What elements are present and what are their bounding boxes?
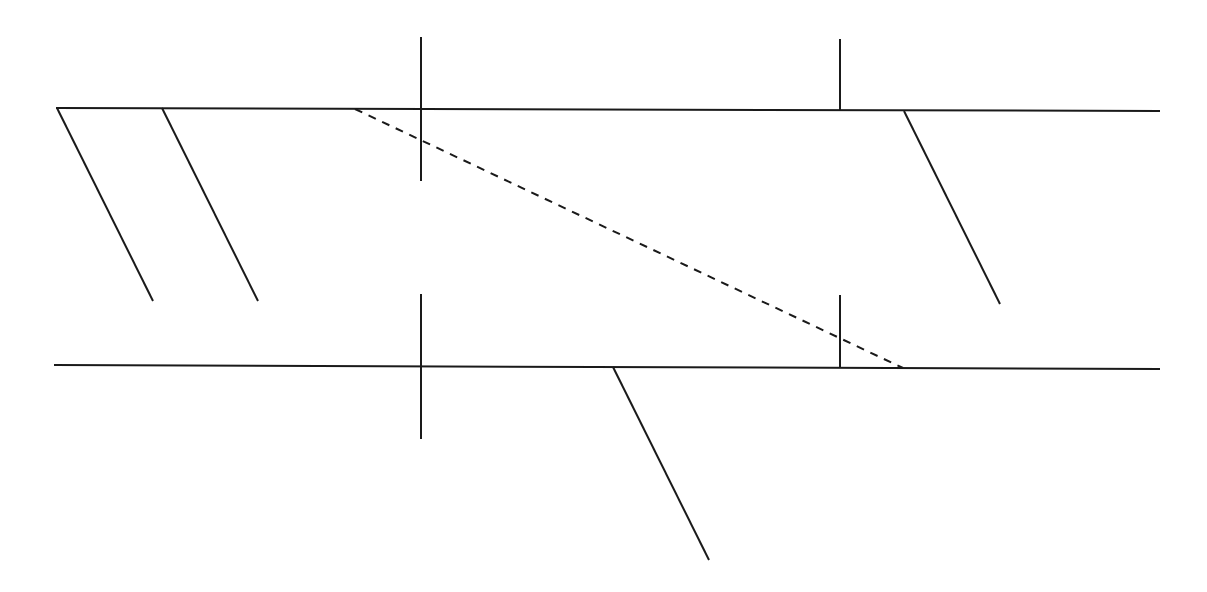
horizontal-lines-group <box>54 108 1160 369</box>
top-branch-3 <box>904 111 1000 304</box>
bottom-branch-1 <box>613 367 709 560</box>
diagram-canvas <box>0 0 1207 592</box>
top-branch-1 <box>57 108 153 301</box>
top-horizontal-line <box>56 108 1160 111</box>
vertical-markers-group <box>421 37 840 439</box>
top-branch-2 <box>162 108 258 301</box>
slanted-branches-group <box>57 108 1000 560</box>
bottom-horizontal-line <box>54 365 1160 369</box>
line-diagram <box>0 0 1207 592</box>
dashed-diagonal-line <box>355 109 903 368</box>
dashed-lines-group <box>355 109 903 368</box>
